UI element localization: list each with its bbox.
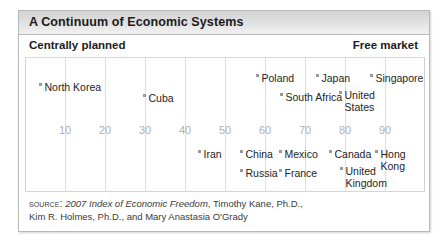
data-point-label: China — [246, 149, 273, 161]
data-point-label: Poland — [262, 73, 295, 85]
data-point-north-korea: North Korea — [39, 82, 101, 94]
continuum-pole-labels: Centrally planned Free market — [19, 35, 429, 57]
data-point-marker — [316, 74, 319, 77]
data-point-france: France — [279, 168, 317, 180]
data-point-russia: Russia — [240, 168, 278, 180]
data-point-iran: Iran — [198, 149, 222, 161]
pole-label-left: Centrally planned — [29, 39, 126, 51]
axis-tick-label: 10 — [59, 124, 71, 136]
source-authors-line2: Kim R. Holmes, Ph.D., and Mary Anastasia… — [29, 211, 248, 222]
data-point-mexico: Mexico — [279, 149, 318, 161]
axis-tick-label: 30 — [139, 124, 151, 136]
data-point-cuba: Cuba — [143, 93, 174, 105]
data-point-canada: Canada — [329, 149, 371, 161]
figure-title-bar: A Continuum of Economic Systems — [19, 11, 429, 35]
data-point-marker — [279, 169, 282, 172]
gridline — [25, 58, 26, 191]
source-kicker: Source: — [29, 197, 63, 209]
data-point-south-africa: South Africa — [280, 92, 342, 104]
data-point-china: China — [240, 149, 273, 161]
data-point-label: South Africa — [286, 92, 343, 104]
data-point-marker — [339, 91, 342, 94]
continuum-plot-area: 102030405060708090North KoreaCubaPolandJ… — [25, 57, 425, 192]
data-point-label: Iran — [204, 149, 222, 161]
axis-tick-label: 80 — [339, 124, 351, 136]
gridline — [424, 58, 425, 191]
data-point-label: France — [285, 168, 318, 180]
source-authors-line1: , Timothy Kane, Ph.D., — [208, 198, 303, 209]
data-point-japan: Japan — [316, 73, 350, 85]
data-point-united-kingdom: United Kingdom — [340, 166, 387, 189]
data-point-marker — [340, 167, 343, 170]
data-point-marker — [143, 94, 146, 97]
data-point-label: North Korea — [45, 82, 102, 94]
data-point-label: Japan — [322, 73, 351, 85]
axis-tick-label: 20 — [99, 124, 111, 136]
data-point-label: Canada — [335, 149, 372, 161]
data-point-marker — [279, 150, 282, 153]
data-point-marker — [39, 83, 42, 86]
data-point-marker — [280, 93, 283, 96]
data-point-poland: Poland — [256, 73, 294, 85]
axis-tick-label: 90 — [379, 124, 391, 136]
data-point-label: Mexico — [285, 149, 318, 161]
data-point-marker — [240, 169, 243, 172]
data-point-label: Russia — [246, 168, 278, 180]
axis-tick-label: 50 — [219, 124, 231, 136]
data-point-label: United States — [345, 90, 375, 113]
data-point-marker — [256, 74, 259, 77]
data-point-marker — [240, 150, 243, 153]
axis-tick-label: 40 — [179, 124, 191, 136]
data-point-marker — [198, 150, 201, 153]
source-citation: Source: 2007 Index of Economic Freedom, … — [29, 197, 421, 223]
axis-tick-label: 60 — [259, 124, 271, 136]
data-point-label: Cuba — [149, 93, 174, 105]
figure-title: A Continuum of Economic Systems — [29, 15, 243, 29]
data-point-label: Singapore — [376, 73, 424, 85]
pole-label-right: Free market — [353, 39, 418, 51]
axis-tick-label: 70 — [299, 124, 311, 136]
source-publication-title: 2007 Index of Economic Freedom — [65, 198, 208, 209]
data-point-united-states: United States — [339, 90, 375, 113]
data-point-marker — [370, 74, 373, 77]
data-point-marker — [329, 150, 332, 153]
data-point-marker — [375, 150, 378, 153]
data-point-label: United Kingdom — [346, 166, 387, 189]
data-point-singapore: Singapore — [370, 73, 423, 85]
figure-card: A Continuum of Economic Systems Centrall… — [18, 10, 430, 232]
